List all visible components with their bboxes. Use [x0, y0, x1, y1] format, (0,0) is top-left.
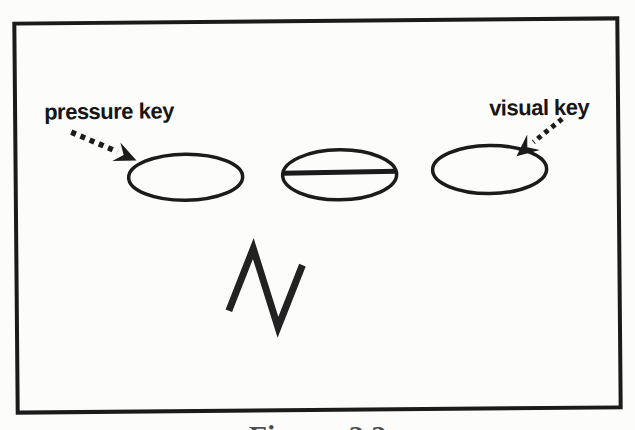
figure-caption: Figure 2.2: [0, 419, 635, 430]
figure-border-frame: pressure key visual key: [12, 16, 622, 414]
visual-key-arrow-shaft: [533, 119, 562, 142]
pressure-key-arrowhead-icon: [112, 142, 136, 161]
diagram-canvas: [16, 20, 618, 410]
pressure-key-label: pressure key: [44, 98, 174, 125]
pressure-key-ellipse: [128, 154, 242, 201]
visual-key-arrowhead-icon: [516, 134, 540, 156]
center-key-slot-line: [283, 171, 397, 173]
stimulus-letter-n: [228, 248, 303, 328]
visual-key-label: visual key: [489, 95, 589, 122]
pressure-key-arrow-shaft: [71, 132, 117, 152]
scanned-figure-page: pressure key visual key Figure 2.2: [0, 0, 635, 430]
